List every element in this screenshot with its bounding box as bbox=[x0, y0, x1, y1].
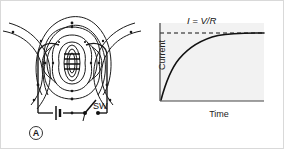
figure-container: SW A I = V/R Current Time B bbox=[0, 0, 284, 149]
circuit-diagram-svg bbox=[1, 1, 143, 149]
panel-a-circuit: SW A bbox=[1, 1, 143, 149]
magnetic-field-lines bbox=[3, 17, 141, 109]
plot-area-background bbox=[160, 23, 264, 101]
switch-label: SW bbox=[93, 101, 108, 111]
coil-windings bbox=[64, 54, 80, 69]
panel-tag-a: A bbox=[29, 126, 43, 140]
x-axis-label: Time bbox=[189, 109, 249, 119]
panel-b-chart: I = V/R Current Time B bbox=[143, 1, 284, 149]
battery-symbol bbox=[56, 106, 60, 120]
y-axis-label: Current bbox=[157, 33, 167, 77]
equation-annotation: I = V/R bbox=[187, 15, 216, 26]
